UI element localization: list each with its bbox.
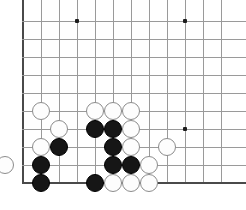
black-stone[interactable] (104, 156, 122, 174)
stones-layer[interactable] (0, 0, 246, 210)
black-stone[interactable] (86, 174, 104, 192)
white-stone[interactable] (104, 174, 122, 192)
white-stone[interactable] (122, 174, 140, 192)
black-stone[interactable] (32, 156, 50, 174)
white-stone[interactable] (122, 102, 140, 120)
black-stone[interactable] (86, 120, 104, 138)
go-board-diagram: Go board corner position 19x19 9 14 23 (0, 0, 246, 210)
white-stone[interactable] (86, 102, 104, 120)
white-stone[interactable] (122, 138, 140, 156)
white-stone[interactable] (0, 156, 14, 174)
black-stone[interactable] (104, 120, 122, 138)
white-stone[interactable] (32, 138, 50, 156)
goban[interactable] (0, 0, 246, 210)
white-stone[interactable] (140, 156, 158, 174)
black-stone[interactable] (104, 138, 122, 156)
white-stone[interactable] (50, 120, 68, 138)
white-stone[interactable] (140, 174, 158, 192)
black-stone[interactable] (32, 174, 50, 192)
white-stone[interactable] (104, 102, 122, 120)
white-stone[interactable] (122, 120, 140, 138)
white-stone[interactable] (158, 138, 176, 156)
white-stone[interactable] (32, 102, 50, 120)
black-stone[interactable] (50, 138, 68, 156)
black-stone[interactable] (122, 156, 140, 174)
